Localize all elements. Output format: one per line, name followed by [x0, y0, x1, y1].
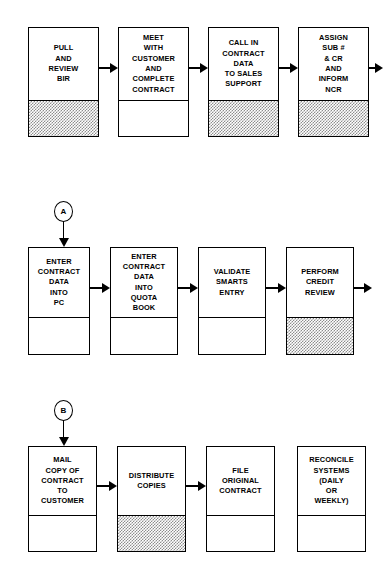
process-box-pull-and-review-bir[interactable]: PULL AND REVIEW BIR: [28, 27, 99, 137]
arrow-shaft: [99, 67, 110, 69]
process-box-footer: [111, 317, 177, 354]
process-box-label: RECONCILE SYSTEMS (DAILY OR WEEKLY): [309, 455, 353, 506]
process-box-footer: [298, 515, 365, 551]
arrow-row1-2-to-3: [189, 63, 208, 73]
connector-a[interactable]: A: [54, 201, 73, 222]
process-box-footer-shaded: [29, 100, 98, 136]
process-box-label-area: DISTRIBUTE COPIES: [118, 447, 185, 515]
process-box-label-area: RECONCILE SYSTEMS (DAILY OR WEEKLY): [298, 447, 365, 515]
process-box-enter-contract-data-into-quota-book[interactable]: ENTER CONTRACT DATA INTO QUOTA BOOK: [110, 247, 178, 355]
process-box-footer: [29, 317, 89, 354]
arrow-row3-1-to-2: [97, 481, 117, 491]
arrow-row2-1-to-2: [90, 283, 110, 293]
process-box-perform-credit-review[interactable]: PERFORM CREDIT REVIEW: [286, 247, 354, 355]
process-box-footer: [199, 317, 265, 354]
process-box-reconcile-systems-daily-or-weekly[interactable]: RECONCILE SYSTEMS (DAILY OR WEEKLY): [297, 446, 366, 552]
process-box-call-in-contract-data-to-sales-support[interactable]: CALL IN CONTRACT DATA TO SALES SUPPORT: [208, 27, 279, 137]
arrow-row2-exit: [354, 283, 374, 293]
arrow-connector-b-to-box: [59, 420, 69, 446]
process-box-label-area: ENTER CONTRACT DATA INTO PC: [29, 248, 89, 317]
arrow-head: [59, 238, 69, 247]
arrow-head: [198, 481, 206, 491]
process-box-footer-shaded: [118, 515, 185, 551]
process-box-footer-shaded: [209, 100, 278, 136]
process-box-label: PERFORM CREDIT REVIEW: [301, 267, 339, 298]
arrow-row2-3-to-4: [266, 283, 286, 293]
process-box-footer: [119, 100, 188, 136]
arrow-shaft: [63, 420, 65, 437]
arrow-row1-1-to-2: [99, 63, 118, 73]
process-box-label-area: ASSIGN SUB # & CR AND INFORM NCR: [299, 28, 368, 100]
arrow-shaft: [354, 287, 364, 289]
process-box-footer: [207, 515, 274, 551]
process-box-label-area: FILE ORIGINAL CONTRACT: [207, 447, 274, 515]
arrow-head: [109, 481, 117, 491]
arrow-shaft: [186, 485, 198, 487]
arrow-head: [290, 63, 298, 73]
process-box-label: ENTER CONTRACT DATA INTO QUOTA BOOK: [123, 252, 165, 314]
process-box-assign-sub-and-cr-and-inform-ncr[interactable]: ASSIGN SUB # & CR AND INFORM NCR: [298, 27, 369, 137]
connector-a-label: A: [61, 208, 67, 216]
arrow-connector-a-to-box: [59, 221, 69, 247]
arrow-head: [375, 63, 383, 73]
process-box-label: ENTER CONTRACT DATA INTO PC: [38, 257, 80, 308]
arrow-shaft: [189, 67, 200, 69]
arrow-shaft: [178, 287, 190, 289]
process-box-label-area: PERFORM CREDIT REVIEW: [287, 248, 353, 317]
process-box-footer: [29, 515, 96, 551]
process-box-label-area: CALL IN CONTRACT DATA TO SALES SUPPORT: [209, 28, 278, 100]
process-box-label: DISTRIBUTE COPIES: [129, 471, 174, 492]
arrow-row1-exit: [369, 63, 383, 73]
process-box-label: MAIL COPY OF CONTRACT TO CUSTOMER: [41, 455, 84, 506]
process-box-enter-contract-data-into-pc[interactable]: ENTER CONTRACT DATA INTO PC: [28, 247, 90, 355]
arrow-head: [200, 63, 208, 73]
arrow-head: [278, 283, 286, 293]
arrow-head: [364, 283, 372, 293]
process-box-label: FILE ORIGINAL CONTRACT: [219, 466, 261, 497]
process-box-distribute-copies[interactable]: DISTRIBUTE COPIES: [117, 446, 186, 552]
process-box-validate-smarts-entry[interactable]: VALIDATE SMARTS ENTRY: [198, 247, 266, 355]
arrow-head: [110, 63, 118, 73]
flowchart-canvas: PULL AND REVIEW BIR MEET WITH CUSTOMER A…: [0, 0, 383, 565]
arrow-shaft: [97, 485, 109, 487]
process-box-label: ASSIGN SUB # & CR AND INFORM NCR: [319, 33, 349, 95]
process-box-footer-shaded: [287, 317, 353, 354]
process-box-label: VALIDATE SMARTS ENTRY: [214, 267, 251, 298]
process-box-label: MEET WITH CUSTOMER AND COMPLETE CONTRACT: [132, 33, 175, 95]
process-box-label-area: MEET WITH CUSTOMER AND COMPLETE CONTRACT: [119, 28, 188, 100]
process-box-label: PULL AND REVIEW BIR: [49, 43, 79, 84]
connector-b[interactable]: B: [54, 400, 73, 421]
process-box-footer-shaded: [299, 100, 368, 136]
process-box-label-area: MAIL COPY OF CONTRACT TO CUSTOMER: [29, 447, 96, 515]
arrow-shaft: [279, 67, 290, 69]
arrow-row1-3-to-4: [279, 63, 298, 73]
connector-b-label: B: [61, 407, 67, 415]
process-box-meet-with-customer-and-complete-contract[interactable]: MEET WITH CUSTOMER AND COMPLETE CONTRACT: [118, 27, 189, 137]
arrow-head: [59, 437, 69, 446]
process-box-label-area: ENTER CONTRACT DATA INTO QUOTA BOOK: [111, 248, 177, 317]
process-box-label-area: PULL AND REVIEW BIR: [29, 28, 98, 100]
arrow-shaft: [63, 221, 65, 238]
arrow-shaft: [90, 287, 102, 289]
process-box-label-area: VALIDATE SMARTS ENTRY: [199, 248, 265, 317]
arrow-head: [190, 283, 198, 293]
process-box-label: CALL IN CONTRACT DATA TO SALES SUPPORT: [222, 38, 264, 89]
process-box-file-original-contract[interactable]: FILE ORIGINAL CONTRACT: [206, 446, 275, 552]
arrow-shaft: [266, 287, 278, 289]
arrow-row2-2-to-3: [178, 283, 198, 293]
process-box-mail-copy-of-contract-to-customer[interactable]: MAIL COPY OF CONTRACT TO CUSTOMER: [28, 446, 97, 552]
arrow-row3-2-to-3: [186, 481, 206, 491]
arrow-head: [102, 283, 110, 293]
